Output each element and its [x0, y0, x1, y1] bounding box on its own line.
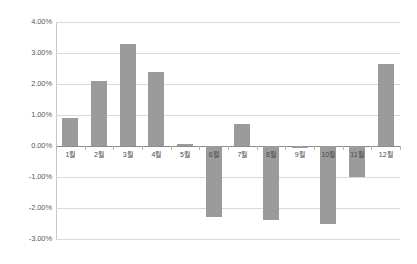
x-tick-mark — [142, 146, 143, 150]
bar-chart: 4.00%3.00%2.00%1.00%0.00%-1.00%-2.00%-3.… — [0, 0, 417, 264]
x-tick-label: 4월 — [142, 151, 171, 159]
x-tick-mark — [400, 146, 401, 150]
x-tick-label: 3월 — [113, 151, 142, 159]
x-tick-label: 6월 — [199, 151, 228, 159]
x-tick-mark — [85, 146, 86, 150]
x-tick-mark — [285, 146, 286, 150]
x-tick-mark — [56, 146, 57, 150]
x-tick-label: 12월 — [371, 151, 400, 159]
x-tick-mark — [371, 146, 372, 150]
x-tick-label: 7월 — [228, 151, 257, 159]
x-tick-label: 8월 — [257, 151, 286, 159]
x-tick-mark — [113, 146, 114, 150]
x-tick-label: 11월 — [343, 151, 372, 159]
x-tick-label: 1월 — [56, 151, 85, 159]
x-axis-labels: 1월2월3월4월5월6월7월8월9월10월11월12월 — [0, 0, 417, 264]
x-tick-label: 10월 — [314, 151, 343, 159]
x-tick-mark — [199, 146, 200, 150]
x-tick-label: 9월 — [285, 151, 314, 159]
x-tick-label: 2월 — [85, 151, 114, 159]
x-tick-mark — [257, 146, 258, 150]
x-tick-label: 5월 — [171, 151, 200, 159]
x-tick-mark — [171, 146, 172, 150]
x-tick-mark — [314, 146, 315, 150]
x-tick-mark — [228, 146, 229, 150]
x-tick-mark — [343, 146, 344, 150]
